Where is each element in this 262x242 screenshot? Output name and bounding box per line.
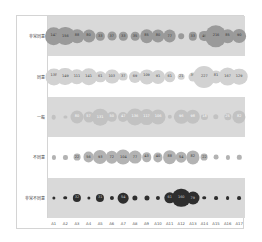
data-bubble [178, 33, 184, 39]
row-label: 非常同意 [18, 33, 45, 39]
bubble-value: 93 [98, 156, 102, 160]
data-bubble: 79 [186, 191, 199, 204]
x-tick-label: A12 [178, 221, 185, 226]
bubble-value: 47 [121, 115, 125, 119]
bubble-value: 50 [110, 115, 114, 119]
bubble-value: 80 [75, 115, 79, 119]
x-tick-label: A7 [121, 221, 126, 226]
x-tick-label: A14 [201, 221, 208, 226]
data-bubble [226, 196, 230, 200]
bubble-value: 85 [225, 34, 229, 38]
data-bubble [64, 196, 68, 200]
x-tick-label: A3 [74, 221, 79, 226]
bubble-value: 216 [213, 34, 220, 38]
data-bubble: 54 [176, 152, 187, 163]
bubble-value: 77 [133, 156, 137, 160]
bubble-value: 37 [121, 75, 125, 79]
bubble-value: 22 [202, 156, 206, 160]
data-bubble: 80 [70, 110, 83, 123]
bubble-value: 35 [133, 34, 137, 38]
bubble-value: 91 [156, 75, 160, 79]
x-tick-label: A1 [51, 221, 56, 226]
data-bubble: 77 [163, 30, 176, 43]
x-tick-label: A2 [63, 221, 68, 226]
bubble-value: 88 [167, 156, 171, 160]
data-bubble: 43 [142, 153, 152, 163]
data-bubble: 129 [231, 68, 248, 85]
bubble-value: 136 [132, 115, 139, 119]
data-bubble [214, 155, 219, 160]
bubble-value: 96 [179, 115, 183, 119]
bubble-value: 80 [86, 34, 90, 38]
bubble-value: 33 [98, 34, 102, 38]
bubble-value: 32 [75, 196, 79, 200]
x-tick-label: A10 [154, 221, 161, 226]
bubble-value: 129 [236, 75, 243, 79]
row-label: 同意 [18, 74, 45, 80]
x-tick-label: A5 [98, 221, 103, 226]
bubble-value: 22 [75, 156, 79, 160]
bubble-value: 149 [62, 75, 69, 79]
bubble-value: 40 [156, 156, 160, 160]
x-tick-label: A15 [212, 221, 219, 226]
bubble-value: 85 [144, 34, 148, 38]
bubble-value: 43 [144, 156, 148, 160]
data-bubble [51, 115, 56, 120]
bubble-value: 37 [110, 34, 114, 38]
bubble-value: 131 [97, 115, 104, 119]
bubble-value: 54 [179, 156, 183, 160]
x-tick-label: A8 [132, 221, 137, 226]
bubble-value: 72 [110, 156, 114, 160]
bubble-value: 106 [155, 115, 162, 119]
bubble-value: 103 [108, 75, 115, 79]
bubble-value: 227 [201, 75, 208, 79]
bubble-value: 82 [237, 115, 241, 119]
data-bubble: 106 [151, 109, 166, 124]
bubble-value: 160 [178, 196, 185, 200]
bubble-value: 33 [191, 34, 195, 38]
data-bubble: 35 [131, 32, 140, 41]
x-tick-label: A17 [235, 221, 242, 226]
x-tick-label: A11 [166, 221, 173, 226]
bubble-value: 88 [75, 34, 79, 38]
bubble-value: 104 [120, 156, 127, 160]
bubble-value: 82 [191, 156, 195, 160]
bubble-value: 21 [179, 75, 183, 79]
plot-area: 非常同意14715688803337333585807733492168590同… [47, 16, 245, 218]
bubble-value: 33 [121, 34, 125, 38]
chart-frame: 非常同意14715688803337333585807733492168590同… [16, 15, 244, 229]
bubble-value: 109 [143, 75, 150, 79]
bubble-value: 98 [191, 115, 195, 119]
x-tick-label: A4 [86, 221, 91, 226]
x-tick-label: A6 [109, 221, 114, 226]
data-bubble: 22 [201, 154, 208, 161]
data-bubble: 103 [104, 69, 119, 84]
data-bubble: 91 [151, 70, 165, 84]
bubble-value: 90 [237, 34, 241, 38]
bubble-value: 61 [98, 75, 102, 79]
bubble-value: 56 [86, 156, 90, 160]
data-bubble [237, 196, 241, 200]
x-tick-label: A9 [144, 221, 149, 226]
x-tick-label: A13 [189, 221, 196, 226]
bubble-value: 57 [86, 115, 90, 119]
bubble-value: 54 [121, 196, 125, 200]
bubble-value: 31 [98, 196, 102, 200]
data-bubble: 37 [107, 32, 116, 41]
data-bubble: 37 [119, 72, 128, 81]
data-bubble: 88 [163, 151, 177, 165]
bubble-value: 79 [191, 196, 195, 200]
bubble-value: 141 [85, 75, 92, 79]
data-bubble [203, 196, 207, 200]
data-bubble: 90 [232, 29, 246, 43]
data-bubble: 80 [82, 30, 95, 43]
data-bubble: 54 [118, 192, 129, 203]
data-bubble: 21 [178, 73, 185, 80]
data-bubble: 77 [129, 151, 142, 164]
row-label: 非常不同意 [18, 195, 45, 201]
bubble-value: 25 [225, 115, 229, 119]
bubble-value: 18 [202, 115, 206, 119]
bubble-value: 156 [62, 34, 69, 38]
bubble-value: 117 [143, 115, 150, 119]
data-bubble [214, 196, 218, 200]
